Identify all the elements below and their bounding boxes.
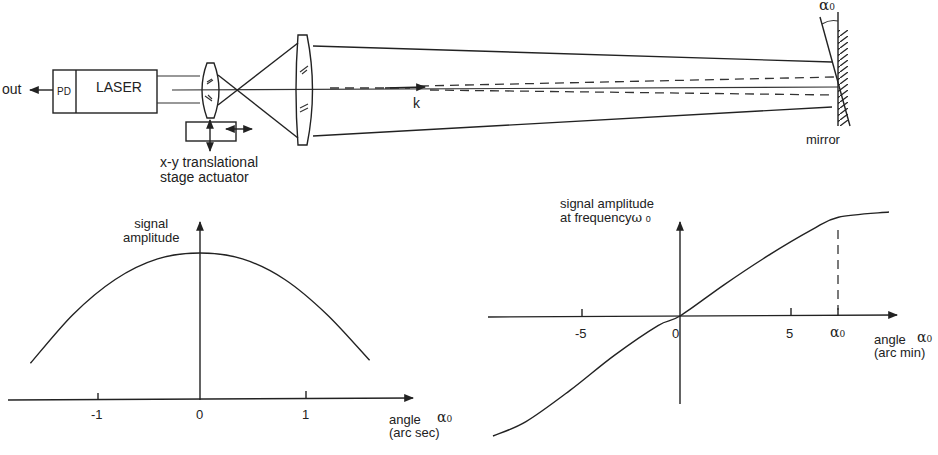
alpha-subscript: 0 <box>926 334 932 344</box>
right-xtick-label-alpha0: α0 <box>830 325 845 341</box>
ray-2 <box>218 43 298 105</box>
reflected-beam-lower <box>430 90 835 95</box>
lens-mark-3 <box>300 66 308 74</box>
actuator-label-line1: x-y translational <box>160 154 258 170</box>
wavevector-arrow-icon <box>385 87 425 88</box>
right-xtick-label-neg5: -5 <box>575 327 587 341</box>
lens-mark-2 <box>205 95 212 101</box>
left-xlabel-line2: (arc sec) <box>389 425 440 440</box>
out-label: out <box>2 82 21 96</box>
right-ylabel: signal amplitude at frequencyω 0 <box>560 197 654 226</box>
mirror-label: mirror <box>806 133 840 147</box>
left-ylabel-line2: amplitude <box>123 230 179 245</box>
alpha-subscript: 0 <box>446 414 452 424</box>
beam-edge-bottom <box>313 107 832 136</box>
left-ylabel-line1: signal <box>134 216 168 231</box>
small-lens <box>202 63 219 118</box>
right-x-axis <box>488 315 897 317</box>
reflected-beam-upper <box>420 77 835 86</box>
left-xlabel: angle (arc sec) <box>389 413 440 439</box>
right-xtick-label-5: 5 <box>786 327 793 341</box>
alpha-symbol: α <box>819 0 829 14</box>
omega-symbol: ω <box>632 210 643 225</box>
optical-setup <box>30 12 850 151</box>
laser-label: LASER <box>96 80 142 94</box>
left-xtick-label-1: 1 <box>302 408 309 422</box>
left-xlabel-alpha: α0 <box>437 410 452 426</box>
omega-subscript: 0 <box>646 214 651 224</box>
actuator-label: x-y translational stage actuator <box>160 155 258 185</box>
right-ylabel-line1: signal amplitude <box>560 196 654 211</box>
left-xtick-label-0: 0 <box>196 408 203 422</box>
right-xtick-label-0: 0 <box>672 327 679 341</box>
right-xlabel-line2: (arc min) <box>874 345 925 360</box>
alpha-subscript: 0 <box>839 329 845 339</box>
left-ylabel: signal amplitude <box>123 217 179 245</box>
alpha-subscript: 0 <box>829 2 835 12</box>
lens-mark-4 <box>300 104 308 112</box>
beam-edge-top <box>313 46 832 62</box>
mirror-angle-arc <box>822 20 838 24</box>
wavevector-label: k <box>413 96 420 110</box>
plot-left <box>8 222 413 400</box>
left-x-axis <box>8 398 413 400</box>
optical-axis <box>172 87 838 90</box>
left-xtick-label-neg1: -1 <box>91 408 103 422</box>
actuator-label-line2: stage actuator <box>160 169 249 185</box>
mirror-angle-label: α0 <box>819 0 835 14</box>
right-ylabel-line2: at frequency <box>560 210 632 225</box>
actuator-box <box>186 122 236 141</box>
right-xlabel-alpha: α0 <box>917 330 932 346</box>
lens-mark-1 <box>207 79 213 84</box>
large-lens <box>296 35 313 145</box>
pd-label: PD <box>57 85 71 99</box>
